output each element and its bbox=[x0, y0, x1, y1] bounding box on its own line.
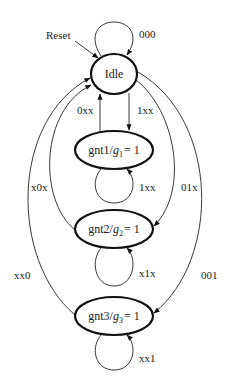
svg-text:000: 000 bbox=[139, 28, 156, 40]
transition-idle-idle: 000 bbox=[95, 22, 156, 56]
svg-text:x1x: x1x bbox=[139, 267, 156, 279]
transition-gnt1-idle: 0xx bbox=[77, 94, 100, 132]
svg-text:gnt2/g2= 1: gnt2/g2= 1 bbox=[88, 222, 139, 238]
transition-gnt1-gnt1: 1xx bbox=[95, 168, 156, 203]
svg-text:gnt3/g3= 1: gnt3/g3= 1 bbox=[88, 309, 139, 325]
state-gnt1: gnt1/g1= 1 bbox=[75, 131, 153, 169]
svg-text:xx1: xx1 bbox=[139, 352, 156, 364]
svg-text:001: 001 bbox=[201, 269, 218, 281]
reset-label: Reset bbox=[46, 29, 70, 41]
transition-gnt3-gnt3: xx1 bbox=[95, 334, 155, 370]
state-gnt3: gnt3/g3= 1 bbox=[75, 297, 153, 335]
state-gnt2: gnt2/g2= 1 bbox=[75, 210, 153, 248]
svg-text:1xx: 1xx bbox=[139, 181, 156, 193]
state-diagram: Reset 000 1xx 0xx 1xx 01x x0x x1x 001 bbox=[0, 0, 229, 387]
svg-text:gnt1/g1= 1: gnt1/g1= 1 bbox=[88, 143, 139, 159]
state-idle: Idle bbox=[91, 54, 137, 94]
svg-text:x0x: x0x bbox=[31, 181, 48, 193]
transition-idle-gnt1: 1xx bbox=[129, 93, 154, 130]
transition-gnt2-gnt2: x1x bbox=[95, 247, 156, 286]
reset-arrow: Reset bbox=[46, 29, 98, 58]
svg-text:0xx: 0xx bbox=[77, 104, 94, 116]
svg-text:xx0: xx0 bbox=[14, 269, 31, 281]
svg-text:01x: 01x bbox=[181, 181, 198, 193]
svg-text:1xx: 1xx bbox=[137, 104, 154, 116]
svg-text:Idle: Idle bbox=[105, 67, 124, 81]
